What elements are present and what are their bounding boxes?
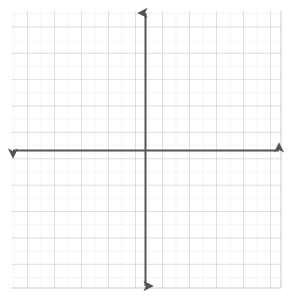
coordinate-grid-figure: [0, 0, 291, 298]
cartesian-plane-svg: [0, 0, 291, 298]
